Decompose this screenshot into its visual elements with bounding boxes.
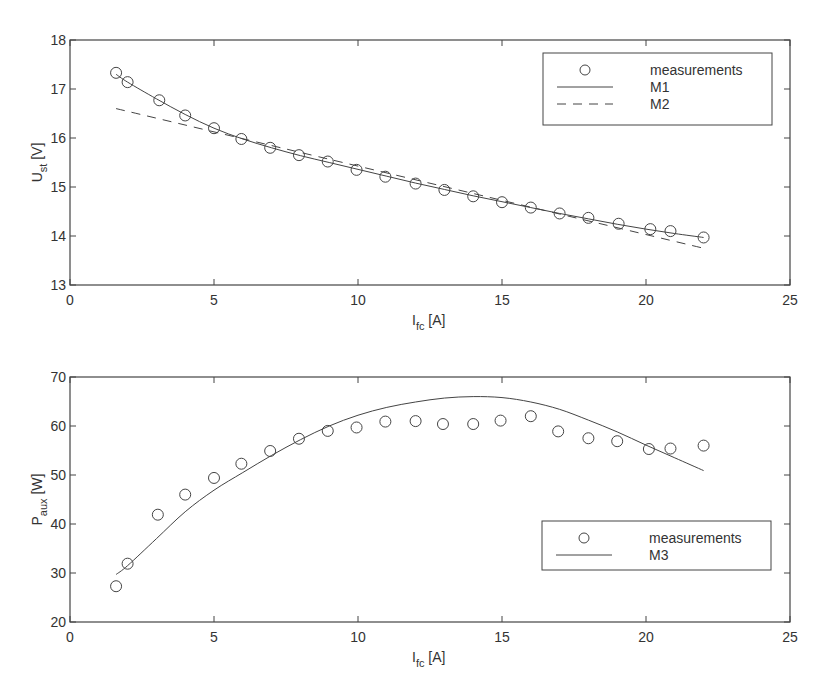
measurement-marker — [380, 416, 391, 427]
measurement-marker — [180, 110, 191, 121]
x-tick-label: 10 — [350, 292, 366, 308]
y-tick-label: 13 — [50, 277, 66, 293]
legend-label: M2 — [650, 96, 670, 112]
x-tick-label: 25 — [782, 629, 798, 645]
measurement-marker — [265, 445, 276, 456]
y-tick-label: 60 — [50, 418, 66, 434]
svg-text:Ust [V]: Ust [V] — [29, 143, 49, 183]
measurement-marker — [665, 443, 676, 454]
aux-power-plot-y-axis-label: Paux [W] — [29, 474, 49, 526]
x-tick-label: 5 — [210, 629, 218, 645]
x-tick-label: 25 — [782, 292, 798, 308]
y-tick-label: 15 — [50, 179, 66, 195]
aux-power-plot-axes — [70, 377, 790, 622]
voltage-plot-y-axis-label: Ust [V] — [29, 143, 49, 183]
y-tick-label: 14 — [50, 228, 66, 244]
y-tick-label: 30 — [50, 565, 66, 581]
y-tick-label: 17 — [50, 81, 66, 97]
measurement-marker — [495, 415, 506, 426]
measurement-marker — [410, 416, 421, 427]
measurement-marker — [525, 411, 536, 422]
svg-text:Ifc [A]: Ifc [A] — [412, 649, 445, 669]
aux-power-plot-ticks: 0510152025203040506070 — [50, 369, 798, 645]
measurement-marker — [180, 489, 191, 500]
legend-label: measurements — [649, 530, 742, 546]
voltage-plot: 0510152025131415161718 Ifc [A] Ust [V] m… — [29, 32, 798, 332]
measurement-marker — [236, 458, 247, 469]
x-tick-label: 0 — [66, 292, 74, 308]
y-tick-label: 18 — [50, 32, 66, 48]
measurement-marker — [698, 440, 709, 451]
x-tick-label: 0 — [66, 629, 74, 645]
legend-label: measurements — [650, 62, 743, 78]
measurement-marker — [612, 436, 623, 447]
measurement-marker — [553, 426, 564, 437]
measurement-marker — [351, 422, 362, 433]
x-tick-label: 15 — [494, 292, 510, 308]
x-tick-label: 15 — [494, 629, 510, 645]
y-tick-label: 40 — [50, 516, 66, 532]
legend-label: M1 — [650, 79, 670, 95]
x-tick-label: 10 — [350, 629, 366, 645]
svg-text:Paux [W]: Paux [W] — [29, 474, 49, 526]
y-tick-label: 20 — [50, 614, 66, 630]
x-tick-label: 5 — [210, 292, 218, 308]
x-tick-label: 20 — [638, 629, 654, 645]
aux-power-plot-x-axis-label: Ifc [A] — [412, 649, 445, 669]
measurement-marker — [437, 419, 448, 430]
measurement-marker — [665, 226, 676, 237]
legend-label: M3 — [649, 547, 669, 563]
figure-canvas: 0510152025131415161718 Ifc [A] Ust [V] m… — [0, 0, 831, 698]
measurement-marker — [209, 472, 220, 483]
aux-power-plot-legend: measurementsM3 — [542, 521, 771, 570]
measurement-marker — [111, 581, 122, 592]
x-tick-label: 20 — [638, 292, 654, 308]
measurement-marker — [468, 419, 479, 430]
svg-text:Ifc [A]: Ifc [A] — [412, 312, 445, 332]
aux-power-plot: 0510152025203040506070 Ifc [A] Paux [W] … — [29, 369, 798, 669]
voltage-plot-legend: measurementsM1M2 — [543, 53, 772, 125]
m2-model-line — [116, 109, 704, 249]
measurement-marker — [583, 433, 594, 444]
y-tick-label: 50 — [50, 467, 66, 483]
y-tick-label: 70 — [50, 369, 66, 385]
measurement-marker — [152, 509, 163, 520]
y-tick-label: 16 — [50, 130, 66, 146]
voltage-plot-x-axis-label: Ifc [A] — [412, 312, 445, 332]
measurement-marker — [122, 558, 133, 569]
